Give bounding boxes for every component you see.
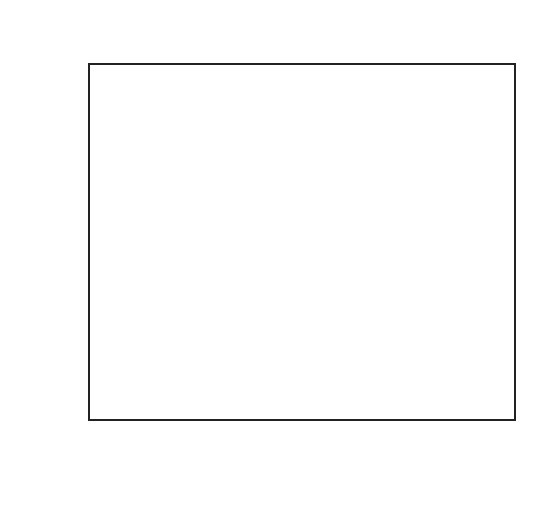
plot-frame (89, 64, 515, 420)
chart (0, 0, 541, 525)
